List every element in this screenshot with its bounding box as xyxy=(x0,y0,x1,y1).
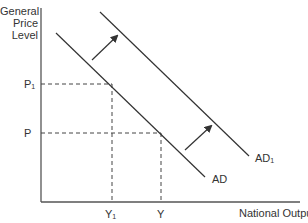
curve-label-ad: AD xyxy=(212,173,227,185)
ad1-curve xyxy=(100,12,249,156)
y-axis-label-line2: Price xyxy=(0,17,38,29)
y-axis-label-line3: Level xyxy=(0,29,38,41)
diagram-canvas xyxy=(0,0,308,223)
shift-arrow-upper xyxy=(92,36,117,60)
shift-arrow-lower xyxy=(185,126,211,150)
x-axis-label: National Output xyxy=(239,207,308,219)
output-label-y: Y xyxy=(157,208,164,220)
y-axis-label-line1: General xyxy=(0,5,38,17)
price-label-p: P xyxy=(24,127,31,139)
ad-curve xyxy=(56,33,205,177)
curve-label-ad1: AD1 xyxy=(255,152,274,167)
output-label-y1: Y1 xyxy=(105,208,116,223)
price-label-p1: P1 xyxy=(24,78,35,93)
